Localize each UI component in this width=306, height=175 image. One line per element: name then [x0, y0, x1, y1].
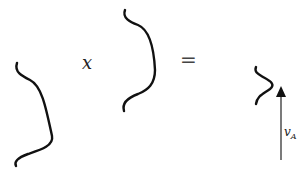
- wave-pulse-left: [15, 63, 52, 166]
- velocity-label: vA: [284, 125, 297, 141]
- wave-pulse-result: [255, 67, 272, 104]
- equals-operator: =: [180, 48, 197, 72]
- diagram-canvas: x = vA: [0, 0, 306, 175]
- velocity-arrow-head-icon: [276, 86, 286, 97]
- wave-pulse-middle: [124, 10, 155, 111]
- diagram-svg: [0, 0, 306, 175]
- times-operator: x: [82, 52, 92, 73]
